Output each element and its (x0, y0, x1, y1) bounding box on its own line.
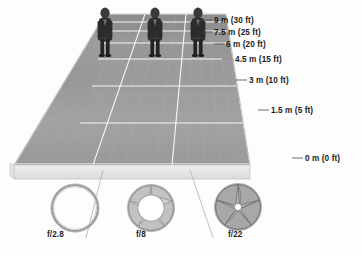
aperture-f22 (214, 183, 261, 230)
distance-label-3m: 3 m (10 ft) (249, 77, 289, 85)
aperture-f8 (127, 184, 174, 231)
distance-label-4-5m: 4.5 m (15 ft) (235, 56, 282, 64)
ground-plane (10, 14, 250, 179)
aperture-f28 (51, 184, 99, 232)
leader-f22 (190, 170, 213, 238)
plane-slab-face (14, 165, 250, 179)
plane-slab-bevel (10, 163, 14, 179)
aperture-label-f28: f/2.8 (47, 231, 64, 239)
scene-svg (0, 0, 362, 256)
aperture-label-f22: f/22 (228, 231, 243, 239)
distance-label-7-5m: 7.5 m (25 ft) (214, 29, 261, 37)
aperture-label-f8: f/8 (136, 231, 146, 239)
distance-label-6m: 6 m (20 ft) (226, 41, 266, 49)
depth-of-field-diagram: 9 m (30 ft) 7.5 m (25 ft) 6 m (20 ft) 4.… (0, 0, 362, 256)
distance-label-0m: 0 m (0 ft) (305, 155, 340, 163)
distance-label-1-5m: 1.5 m (5 ft) (271, 107, 313, 115)
distance-label-9m: 9 m (30 ft) (214, 17, 254, 25)
